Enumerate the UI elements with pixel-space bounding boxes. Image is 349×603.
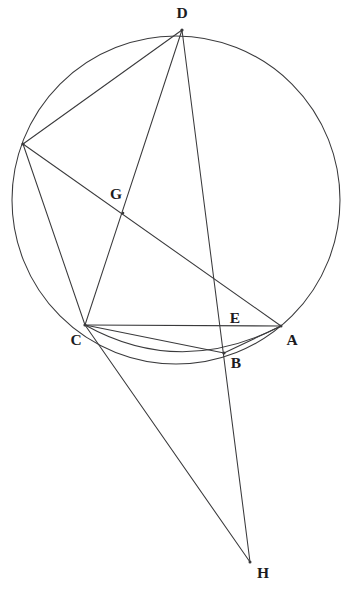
vertex-dot-F [21,142,24,145]
point-label-D: D [176,4,187,21]
segment-F-A [23,144,281,326]
point-label-B: B [231,354,241,371]
segments-group [23,30,281,562]
vertex-dot-B [222,351,225,354]
vertex-dots-group [21,28,282,563]
point-labels-group: D G C E A B H [70,4,298,581]
segment-F-C [23,144,85,325]
main-circumcircle [12,36,340,364]
segment-F-D [23,30,182,144]
segment-D-C [85,30,182,325]
point-label-G: G [110,185,122,202]
vertex-dot-C [83,323,86,326]
vertex-dot-G [122,212,125,215]
point-label-E: E [230,309,240,326]
vertex-dot-D [180,28,183,31]
point-label-H: H [257,564,269,581]
vertex-dot-H [249,561,252,564]
geometry-figure: D G C E A B H [0,0,349,603]
segment-C-H [85,325,250,562]
point-label-A: A [286,331,298,348]
vertex-dot-A [280,325,283,328]
point-label-C: C [70,331,81,348]
segment-D-H [182,30,250,562]
arc-c-to-a [85,325,281,352]
segment-C-A [85,325,281,326]
